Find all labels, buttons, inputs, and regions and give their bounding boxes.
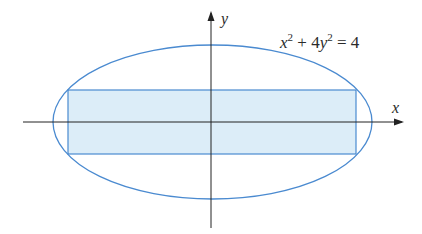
- x-axis-label: x: [391, 99, 399, 116]
- ellipse-equation-label: x2 + 4y2 = 4: [279, 31, 360, 52]
- eq-y: y: [318, 33, 328, 52]
- diagram-canvas: x y x2 + 4y2 = 4: [0, 0, 422, 234]
- y-axis-label: y: [219, 10, 229, 28]
- ellipse-inscribed-rectangle-diagram: x y x2 + 4y2 = 4: [0, 0, 422, 234]
- eq-plus: + 4: [293, 33, 320, 52]
- eq-rhs: = 4: [333, 33, 360, 52]
